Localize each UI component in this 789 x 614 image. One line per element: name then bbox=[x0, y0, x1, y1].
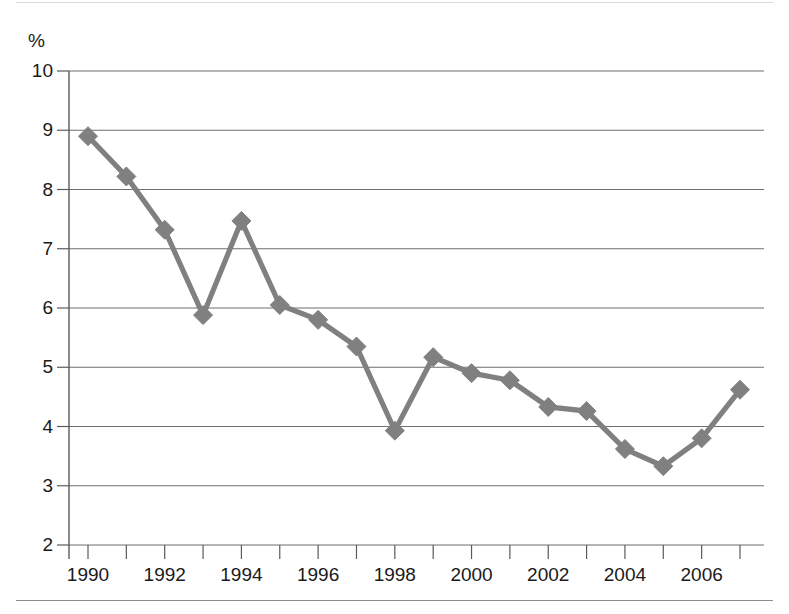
y-axis-tick-label: 4 bbox=[19, 417, 53, 436]
y-axis-tick-label: 2 bbox=[19, 535, 53, 554]
y-axis-tick-label: 5 bbox=[19, 357, 53, 376]
x-axis-tick-label: 1996 bbox=[288, 565, 348, 584]
gridline-group bbox=[69, 71, 764, 545]
x-axis-tick-label: 2006 bbox=[672, 565, 732, 584]
chart-svg-canvas bbox=[0, 0, 789, 614]
data-point-marker bbox=[232, 211, 251, 230]
series-polyline bbox=[88, 136, 740, 466]
y-axis-tick-label: 9 bbox=[19, 120, 53, 139]
x-axis-tick-label: 2000 bbox=[442, 565, 502, 584]
x-axis-tick-label: 1992 bbox=[135, 565, 195, 584]
data-point-marker bbox=[385, 421, 404, 440]
y-axis-tick-label: 10 bbox=[19, 61, 53, 80]
data-point-marker bbox=[462, 364, 481, 383]
bottom-divider-rule bbox=[16, 600, 773, 601]
y-axis-tick-label: 8 bbox=[19, 180, 53, 199]
y-axis-tick-label: 7 bbox=[19, 239, 53, 258]
x-axis-tick-label: 2004 bbox=[595, 565, 655, 584]
data-series-line bbox=[88, 136, 740, 466]
y-axis-tick-label: 6 bbox=[19, 298, 53, 317]
x-axis-tick-label: 1998 bbox=[365, 565, 425, 584]
chart-figure: % 1098765432 199019921994199619982000200… bbox=[0, 0, 789, 614]
y-tick-mark-group bbox=[57, 71, 69, 545]
x-axis-tick-label: 2002 bbox=[518, 565, 578, 584]
x-tick-mark-group bbox=[88, 545, 740, 559]
data-point-marker-group bbox=[79, 127, 750, 476]
x-axis-tick-label: 1990 bbox=[58, 565, 118, 584]
x-axis-tick-label: 1994 bbox=[211, 565, 271, 584]
data-point-marker bbox=[424, 348, 443, 367]
line-chart-plot-area: % 1098765432 199019921994199619982000200… bbox=[0, 0, 789, 614]
data-point-marker bbox=[270, 296, 289, 315]
y-axis-unit-label: % bbox=[28, 31, 45, 50]
y-axis-tick-label: 3 bbox=[19, 476, 53, 495]
